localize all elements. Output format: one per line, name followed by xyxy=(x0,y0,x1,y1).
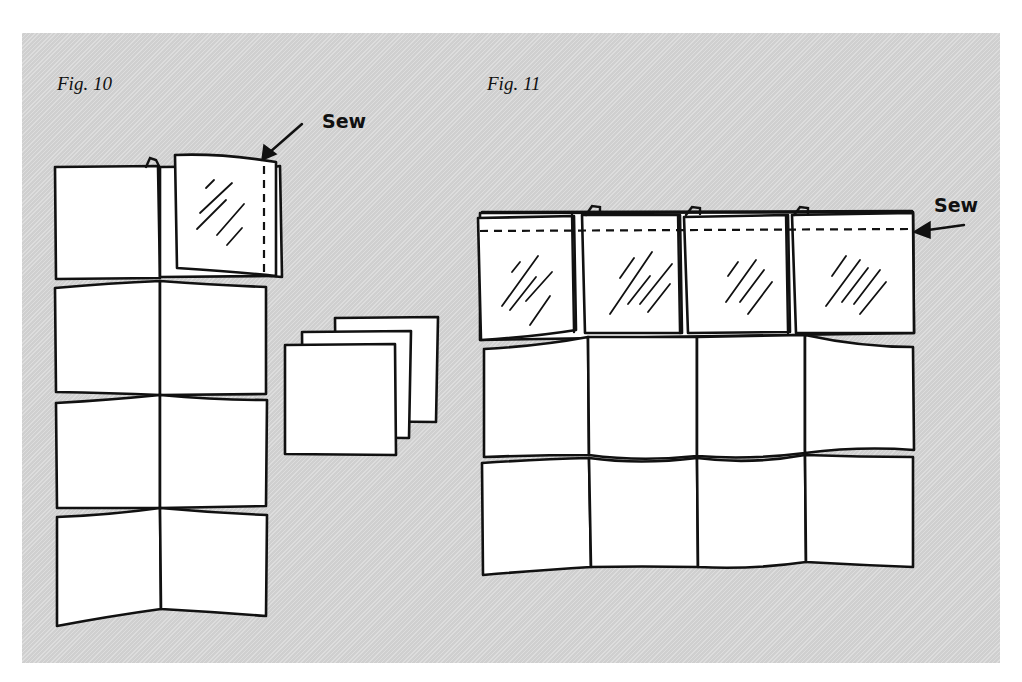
figure-10-drawing xyxy=(55,124,302,626)
quilt-diagram xyxy=(0,0,1022,682)
square-stack xyxy=(285,317,438,455)
figure-11-drawing xyxy=(478,206,964,575)
